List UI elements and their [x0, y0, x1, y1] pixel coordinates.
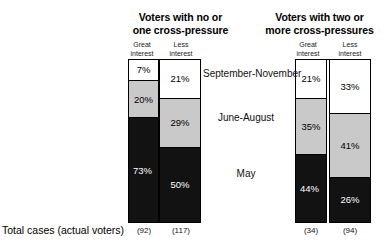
- bar-segment-september-november: 7%: [129, 60, 158, 80]
- stacked-bar-left-less-interest: 21% 29% 50%: [159, 59, 201, 223]
- group-title-left: Voters with no or one cross-pressure: [108, 11, 253, 37]
- column-header-right-less-interest: Less interest: [329, 41, 371, 58]
- group-title-right-line2: more cross-pressures: [252, 24, 387, 37]
- bar-segment-value: 73%: [129, 165, 158, 176]
- bar-segment-value: 20%: [129, 94, 158, 105]
- total-cases-label: Total cases (actual voters): [2, 224, 124, 236]
- bar-segment-value: 21%: [160, 73, 200, 84]
- total-cases-right-great-interest: (34): [292, 226, 330, 235]
- period-label-may: May: [203, 168, 289, 179]
- bar-segment-may: 50%: [160, 147, 200, 223]
- total-cases-left-great-interest: (92): [126, 226, 162, 235]
- bar-segment-september-november: 33%: [330, 60, 370, 113]
- column-header-line1: Great: [299, 41, 317, 48]
- column-header-line2: interest: [160, 50, 202, 59]
- stacked-bar-right-less-interest: 33% 41% 26%: [329, 59, 371, 223]
- bar-segment-may: 73%: [129, 117, 158, 222]
- group-title-left-line1: Voters with no or: [139, 11, 222, 23]
- group-title-right: Voters with two or more cross-pressures: [252, 11, 387, 37]
- bar-segment-june-august: 41%: [330, 113, 370, 177]
- bar-segment-value: 26%: [330, 194, 370, 205]
- period-label-september-november: September-November: [203, 68, 293, 79]
- bar-segment-june-august: 20%: [129, 80, 158, 117]
- stacked-bar-left-great-interest: 7% 20% 73%: [128, 59, 159, 223]
- column-header-left-less-interest: Less interest: [160, 41, 202, 58]
- bar-segment-value: 41%: [330, 140, 370, 151]
- group-title-left-line2: one cross-pressure: [108, 24, 253, 37]
- column-header-line2: interest: [329, 50, 371, 59]
- bar-segment-value: 7%: [129, 64, 158, 75]
- stacked-bar-right-great-interest: 21% 35% 44%: [295, 59, 327, 223]
- bar-segment-value: 29%: [160, 117, 200, 128]
- column-header-line1: Less: [343, 41, 358, 48]
- column-header-right-great-interest: Great interest: [288, 41, 328, 58]
- column-header-line2: interest: [288, 50, 328, 59]
- bar-segment-value: 44%: [296, 183, 326, 194]
- column-header-line1: Great: [133, 41, 151, 48]
- column-header-left-great-interest: Great interest: [122, 41, 162, 58]
- bar-segment-september-november: 21%: [160, 60, 200, 98]
- column-header-line1: Less: [174, 41, 189, 48]
- period-label-june-august: June-August: [203, 112, 289, 123]
- column-header-line2: interest: [122, 50, 162, 59]
- bar-segment-may: 44%: [296, 154, 326, 222]
- figure-canvas: Voters with no or one cross-pressure Vot…: [0, 0, 387, 250]
- bar-segment-june-august: 35%: [296, 98, 326, 154]
- total-cases-right-less-interest: (94): [331, 226, 369, 235]
- group-title-right-line1: Voters with two or: [275, 11, 363, 23]
- bar-segment-june-august: 29%: [160, 98, 200, 147]
- total-cases-left-less-interest: (117): [162, 226, 200, 235]
- bar-segment-value: 33%: [330, 81, 370, 92]
- bar-segment-may: 26%: [330, 177, 370, 222]
- bar-segment-value: 35%: [296, 121, 326, 132]
- bar-segment-value: 50%: [160, 179, 200, 190]
